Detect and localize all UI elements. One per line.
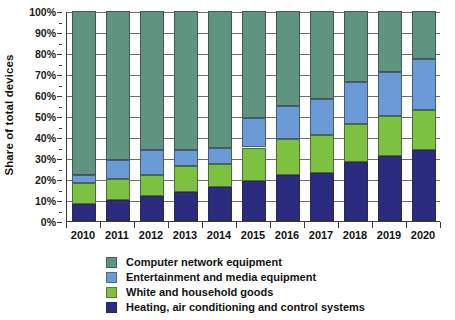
bar-segment[interactable]	[310, 173, 334, 221]
bar-segment[interactable]	[72, 183, 96, 204]
bar-segment[interactable]	[344, 11, 368, 82]
bar-segment[interactable]	[174, 166, 198, 191]
legend-item[interactable]: Computer network equipment	[106, 255, 436, 270]
bar-stack	[174, 11, 198, 221]
bar-stack	[378, 11, 402, 221]
bar-segment[interactable]	[140, 175, 164, 196]
bar-stack	[140, 11, 164, 221]
y-axis-minor-tick-mark	[59, 107, 62, 108]
legend-item-label: Heating, air conditioning and control sy…	[126, 302, 365, 313]
bar-segment[interactable]	[310, 135, 334, 173]
y-axis-tick-mark	[57, 33, 62, 34]
bar-group[interactable]	[378, 12, 402, 221]
bar-stack	[412, 11, 436, 221]
x-axis-tick-mark	[304, 222, 305, 228]
y-axis-tick-labels: 0%10%20%30%40%50%60%70%80%90%100%	[16, 12, 62, 222]
x-axis-tick-mark	[372, 222, 373, 228]
bar-segment[interactable]	[140, 150, 164, 175]
bar-group[interactable]	[208, 12, 232, 221]
bar-segment[interactable]	[344, 162, 368, 221]
legend-item[interactable]: White and household goods	[106, 285, 436, 300]
y-axis-tick-label: 60%	[12, 90, 56, 102]
y-axis-tick-mark	[57, 222, 62, 223]
legend-swatch	[106, 272, 117, 283]
bar-segment[interactable]	[378, 156, 402, 221]
bar-segment[interactable]	[72, 11, 96, 175]
bar-segment[interactable]	[344, 124, 368, 162]
legend-item[interactable]: Heating, air conditioning and control sy…	[106, 300, 436, 315]
bar-segment[interactable]	[276, 106, 300, 140]
bar-segment[interactable]	[106, 179, 130, 200]
bar-segment[interactable]	[208, 148, 232, 165]
bar-segment[interactable]	[378, 11, 402, 72]
x-axis-tick-mark	[168, 222, 169, 228]
bar-segment[interactable]	[208, 11, 232, 148]
bar-segment[interactable]	[242, 181, 266, 221]
bar-segment[interactable]	[412, 110, 436, 150]
bar-segment[interactable]	[412, 11, 436, 59]
bar-stack	[310, 11, 334, 221]
bar-group[interactable]	[174, 12, 198, 221]
y-axis-tick-mark	[57, 54, 62, 55]
bar-stack	[72, 11, 96, 221]
bar-segment[interactable]	[276, 11, 300, 106]
x-axis-tick-label: 2012	[139, 229, 163, 241]
x-axis-ticks	[66, 222, 440, 229]
bar-segment[interactable]	[140, 11, 164, 150]
bar-group[interactable]	[140, 12, 164, 221]
y-axis-minor-tick-mark	[59, 44, 62, 45]
y-axis-minor-tick-mark	[59, 191, 62, 192]
bar-segment[interactable]	[276, 139, 300, 175]
bars-layer	[67, 12, 440, 221]
bar-segment[interactable]	[174, 192, 198, 221]
bar-segment[interactable]	[310, 11, 334, 99]
bar-segment[interactable]	[106, 11, 130, 160]
bar-group[interactable]	[72, 12, 96, 221]
bar-segment[interactable]	[106, 160, 130, 179]
bar-segment[interactable]	[174, 11, 198, 150]
bar-group[interactable]	[344, 12, 368, 221]
y-axis-minor-tick-mark	[59, 86, 62, 87]
y-axis-tick-mark	[57, 201, 62, 202]
bar-segment[interactable]	[208, 187, 232, 221]
legend-swatch	[106, 287, 117, 298]
y-axis-tick-label: 30%	[12, 153, 56, 165]
bar-segment[interactable]	[310, 99, 334, 135]
legend-item[interactable]: Entertainment and media equipment	[106, 270, 436, 285]
bar-segment[interactable]	[242, 118, 266, 147]
bar-segment[interactable]	[344, 82, 368, 124]
bar-group[interactable]	[310, 12, 334, 221]
bar-segment[interactable]	[412, 150, 436, 221]
bar-group[interactable]	[242, 12, 266, 221]
y-axis-tick-label: 40%	[12, 132, 56, 144]
bar-segment[interactable]	[174, 150, 198, 167]
bar-segment[interactable]	[378, 116, 402, 156]
bar-segment[interactable]	[276, 175, 300, 221]
y-axis-minor-tick-mark	[59, 212, 62, 213]
bar-stack	[242, 11, 266, 221]
x-axis-tick-mark	[440, 222, 441, 228]
bar-segment[interactable]	[106, 200, 130, 221]
plot-area	[66, 12, 440, 222]
bar-segment[interactable]	[208, 164, 232, 187]
x-axis-tick-mark	[270, 222, 271, 228]
bar-group[interactable]	[106, 12, 130, 221]
bar-segment[interactable]	[378, 72, 402, 116]
legend-swatch	[106, 302, 117, 313]
x-axis-tick-labels: 2010201120122013201420152016201720182019…	[66, 229, 440, 247]
bar-group[interactable]	[412, 12, 436, 221]
bar-stack	[344, 11, 368, 221]
bar-segment[interactable]	[242, 11, 266, 118]
bar-segment[interactable]	[140, 196, 164, 221]
y-axis-tick-mark	[57, 138, 62, 139]
y-axis-tick-label: 70%	[12, 69, 56, 81]
bar-segment[interactable]	[72, 175, 96, 183]
legend-swatch	[106, 257, 117, 268]
x-axis-tick-label: 2011	[105, 229, 129, 241]
y-axis-minor-tick-mark	[59, 149, 62, 150]
y-axis-tick-label: 90%	[12, 27, 56, 39]
bar-segment[interactable]	[72, 204, 96, 221]
bar-segment[interactable]	[242, 148, 266, 182]
bar-group[interactable]	[276, 12, 300, 221]
bar-segment[interactable]	[412, 59, 436, 109]
